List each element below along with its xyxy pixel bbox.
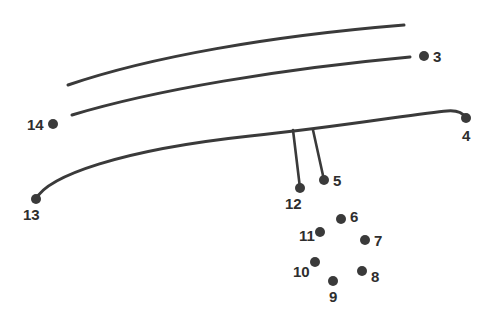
reference-label-11: 11 [299,228,315,243]
reference-dot-8 [357,266,367,276]
middle-curve [72,57,410,115]
figure-canvas: 34567891011121314 [0,0,499,320]
reference-label-3: 3 [433,49,441,64]
reference-dot-12 [295,183,305,193]
leader-to-12 [293,130,300,188]
reference-label-7: 7 [374,233,382,248]
reference-dot-14 [48,119,58,129]
reference-dot-11 [315,227,325,237]
reference-label-10: 10 [293,264,310,279]
reference-dot-10 [310,257,320,267]
reference-dots-group [31,51,471,286]
reference-dot-7 [360,235,370,245]
reference-label-9: 9 [329,289,337,304]
reference-label-4: 4 [462,128,470,143]
reference-label-6: 6 [350,209,358,224]
reference-label-8: 8 [371,269,379,284]
curves-group [36,25,466,199]
reference-dot-5 [319,175,329,185]
reference-dot-4 [461,113,471,123]
reference-label-5: 5 [333,173,341,188]
upper-curve [68,25,404,85]
reference-dot-3 [419,51,429,61]
leader-to-5 [313,130,324,180]
reference-dot-6 [336,214,346,224]
reference-label-14: 14 [27,117,44,132]
reference-label-13: 13 [23,207,40,222]
line-drawing-svg [0,0,499,320]
reference-dot-9 [328,276,338,286]
lower-curve [36,111,466,199]
reference-dot-13 [31,194,41,204]
reference-label-12: 12 [285,196,302,211]
